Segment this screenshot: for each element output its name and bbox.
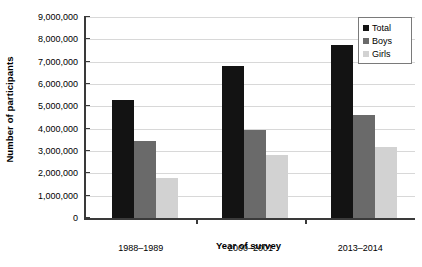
y-axis-tick-label: 1,000,000 xyxy=(14,191,78,201)
bar-boys-3 xyxy=(353,115,375,218)
bar-boys-2 xyxy=(244,130,266,218)
legend-item-total[interactable]: Total xyxy=(363,21,408,34)
legend-item-label: Girls xyxy=(372,49,391,59)
y-axis-tick-labels: 01,000,0002,000,0003,000,0004,000,0005,0… xyxy=(14,17,78,218)
legend-item-label: Total xyxy=(372,23,391,33)
bar-boys-1 xyxy=(134,141,156,218)
bar-total-1 xyxy=(112,100,134,218)
bar-group xyxy=(222,17,288,218)
chart-legend: TotalBoysGirls xyxy=(358,17,412,64)
x-axis-tick-mark xyxy=(196,218,198,224)
y-axis-tick-label: 0 xyxy=(14,213,78,223)
y-axis-tick-label: 4,000,000 xyxy=(14,124,78,134)
y-axis-title-label: Number of participants xyxy=(4,56,15,162)
y-axis-tick-label: 5,000,000 xyxy=(14,101,78,111)
legend-item-girls[interactable]: Girls xyxy=(363,47,408,60)
bar-girls-3 xyxy=(375,147,397,218)
y-axis-tick-label: 2,000,000 xyxy=(14,168,78,178)
bar-total-3 xyxy=(331,45,353,218)
bar-girls-2 xyxy=(266,155,288,218)
legend-swatch-icon xyxy=(363,51,369,57)
y-axis-tick-label: 6,000,000 xyxy=(14,79,78,89)
legend-swatch-icon xyxy=(363,25,369,31)
bar-chart: Number of participants 01,000,0002,000,0… xyxy=(0,0,422,267)
legend-item-boys[interactable]: Boys xyxy=(363,34,408,47)
y-axis-tick-label: 8,000,000 xyxy=(14,34,78,44)
y-axis-tick-label: 9,000,000 xyxy=(14,12,78,22)
y-axis-tick-label: 7,000,000 xyxy=(14,57,78,67)
x-axis-tick-mark xyxy=(305,218,307,224)
bar-total-2 xyxy=(222,66,244,218)
y-axis-tick-label: 3,000,000 xyxy=(14,146,78,156)
bar-girls-1 xyxy=(156,178,178,218)
x-axis-title: Year of survey xyxy=(84,240,413,251)
legend-swatch-icon xyxy=(363,38,369,44)
bar-group xyxy=(112,17,178,218)
legend-item-label: Boys xyxy=(372,36,392,46)
